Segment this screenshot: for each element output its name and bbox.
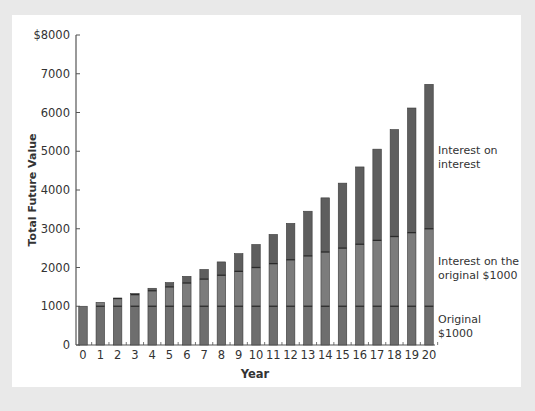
x-tick-label: 9 [235, 348, 242, 362]
legend-original: Original $1000 [438, 313, 481, 340]
x-tick-label: 2 [114, 348, 121, 362]
x-tick-label: 0 [79, 348, 86, 362]
bar-segment [165, 287, 174, 306]
x-tick-label: 13 [301, 348, 316, 362]
bar-segment [304, 306, 313, 345]
x-tick-label: 12 [283, 348, 298, 362]
bar-segment [286, 260, 295, 307]
y-tick-label: 5000 [41, 144, 70, 158]
svg-text:Interest on the: Interest on the [438, 255, 519, 268]
bar-segment [286, 223, 295, 259]
bar-year-10 [252, 244, 261, 345]
bar-segment [217, 262, 226, 275]
bar-year-0 [79, 306, 88, 345]
bar-segment [252, 244, 261, 267]
bar-segment [338, 248, 347, 306]
bar-year-18 [390, 130, 399, 345]
bar-segment [338, 183, 347, 248]
bar-segment [390, 306, 399, 345]
legend-interest-on-original: Interest on the original $1000 [438, 255, 519, 282]
x-tick-label: 7 [200, 348, 207, 362]
bar-segment [79, 306, 88, 345]
bar-year-12 [286, 223, 295, 345]
bar-year-5 [165, 283, 174, 345]
bar-segment [148, 306, 157, 345]
bar-segment [252, 268, 261, 307]
bar-segment [407, 233, 416, 307]
bar-year-1 [96, 302, 105, 345]
bar-segment [200, 306, 209, 345]
x-tick-label: 1 [97, 348, 104, 362]
bar-year-7 [200, 269, 209, 345]
bar-segment [148, 291, 157, 307]
bar-year-3 [131, 293, 140, 345]
bar-year-20 [425, 84, 434, 345]
x-tick-label: 19 [404, 348, 419, 362]
bar-segment [304, 211, 313, 256]
x-tick-label: 10 [249, 348, 264, 362]
bar-segment [217, 306, 226, 345]
bar-segment [321, 306, 330, 345]
bar-segment [321, 198, 330, 252]
bar-year-16 [356, 167, 365, 345]
y-tick-label: 7000 [41, 67, 70, 81]
x-tick-label: 4 [149, 348, 156, 362]
svg-text:Original: Original [438, 313, 481, 326]
bar-year-6 [183, 276, 192, 345]
bar-segment [425, 229, 434, 307]
bar-segment [390, 237, 399, 307]
svg-text:interest: interest [438, 158, 481, 171]
bar-segment [217, 275, 226, 306]
x-tick-label: 16 [352, 348, 367, 362]
x-tick-label: 14 [318, 348, 333, 362]
x-tick-label: 18 [387, 348, 402, 362]
bar-segment [425, 84, 434, 228]
bar-segment [234, 254, 243, 272]
bar-segment [96, 306, 105, 345]
y-tick-label: $8000 [33, 28, 70, 42]
bar-year-14 [321, 198, 330, 345]
stacked-bar-chart: 01000200030004000500060007000$8000 01234… [0, 0, 535, 411]
bar-segment [269, 264, 278, 307]
bar-segment [131, 295, 140, 307]
bar-year-17 [373, 149, 382, 345]
bar-segment [183, 276, 192, 283]
bar-year-8 [217, 262, 226, 345]
bar-segment [356, 244, 365, 306]
bar-segment [356, 167, 365, 244]
bar-segment [165, 306, 174, 345]
bar-segment [338, 306, 347, 345]
bar-year-2 [113, 298, 122, 345]
bar-series [79, 84, 434, 345]
bar-segment [234, 271, 243, 306]
y-axis-label: Total Future Value [26, 134, 39, 247]
y-tick-label: 3000 [41, 222, 70, 236]
bar-segment [113, 306, 122, 345]
bar-segment [131, 306, 140, 345]
bar-segment [269, 306, 278, 345]
svg-text:original $1000: original $1000 [438, 269, 518, 282]
legend-interest-on-interest: Interest on interest [438, 144, 498, 171]
y-tick-label: 2000 [41, 261, 70, 275]
bar-segment [356, 306, 365, 345]
x-tick-label: 6 [183, 348, 190, 362]
bar-segment [200, 269, 209, 279]
bar-year-13 [304, 211, 313, 345]
x-tick-label: 3 [131, 348, 138, 362]
x-axis-label: Year [240, 367, 270, 381]
bar-year-15 [338, 183, 347, 345]
bar-segment [304, 256, 313, 306]
bar-segment [425, 306, 434, 345]
bar-segment [269, 234, 278, 263]
bar-year-11 [269, 234, 278, 345]
bar-segment [373, 240, 382, 306]
x-tick-label: 15 [335, 348, 350, 362]
bar-segment [200, 279, 209, 306]
y-tick-label: 4000 [41, 183, 70, 197]
bar-segment [390, 130, 399, 237]
bar-segment [321, 252, 330, 306]
bar-segment [407, 108, 416, 233]
bar-year-9 [234, 254, 243, 345]
bar-segment [183, 283, 192, 306]
bar-segment [286, 306, 295, 345]
